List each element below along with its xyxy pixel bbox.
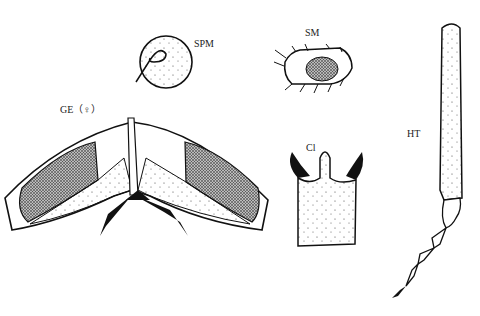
sensory-plate-drawing <box>274 44 352 93</box>
label-ht: HT <box>407 128 420 139</box>
claw-drawing <box>290 152 363 246</box>
genitalia-drawing <box>5 118 268 236</box>
label-sm: SM <box>305 27 319 38</box>
spermatheca-drawing <box>136 36 192 88</box>
label-spm: SPM <box>194 38 214 49</box>
label-ge: GE（♀） <box>60 101 101 116</box>
label-cl: Cl <box>306 142 315 153</box>
hind-tarsus-drawing <box>392 24 462 298</box>
figure-canvas <box>0 0 480 316</box>
